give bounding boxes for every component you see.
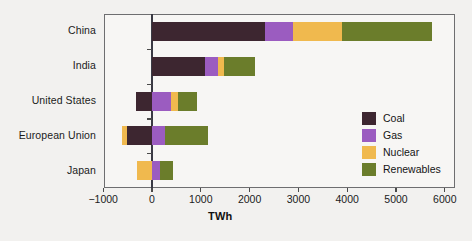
bar-segment-gas bbox=[152, 92, 171, 111]
legend-item-coal: Coal bbox=[362, 110, 441, 126]
legend-swatch-coal-icon bbox=[362, 112, 376, 125]
bar-segment-coal bbox=[152, 57, 205, 76]
bar-segment-coal bbox=[136, 92, 152, 111]
x-axis-title: TWh bbox=[208, 210, 232, 222]
bar-segment-gas bbox=[152, 161, 160, 180]
legend-swatch-renewables-icon bbox=[362, 163, 376, 176]
x-tick-mark bbox=[395, 188, 396, 192]
bar-segment-renewables bbox=[160, 161, 173, 180]
x-tick-label-4000: 4000 bbox=[336, 193, 359, 205]
stacked-bar-chart: China India United States European Union… bbox=[0, 0, 472, 241]
bar-segment-coal bbox=[152, 22, 265, 41]
x-tick-label--1000: −1000 bbox=[88, 193, 118, 205]
x-tick-mark bbox=[298, 188, 299, 192]
legend: Coal Gas Nuclear Renewables bbox=[362, 110, 441, 178]
x-tick-label-2000: 2000 bbox=[238, 193, 261, 205]
legend-swatch-gas-icon bbox=[362, 129, 376, 142]
bar-segment-nuclear bbox=[122, 126, 127, 145]
legend-label-renewables: Renewables bbox=[383, 163, 441, 175]
y-tick-mark bbox=[147, 118, 152, 119]
y-tick-mark bbox=[147, 49, 152, 50]
legend-label-coal: Coal bbox=[383, 112, 405, 124]
bar-group-china bbox=[0, 22, 472, 41]
x-tick-label-3000: 3000 bbox=[287, 193, 310, 205]
bar-segment-renewables bbox=[178, 92, 197, 111]
legend-item-gas: Gas bbox=[362, 127, 441, 143]
bar-segment-renewables bbox=[165, 126, 208, 145]
legend-item-renewables: Renewables bbox=[362, 161, 441, 177]
x-tick-label-5000: 5000 bbox=[384, 193, 407, 205]
bar-segment-gas bbox=[265, 22, 293, 41]
bar-group-united-states bbox=[0, 92, 472, 111]
bar-segment-coal bbox=[127, 126, 152, 145]
x-tick-mark bbox=[249, 188, 250, 192]
legend-label-gas: Gas bbox=[383, 129, 402, 141]
y-tick-mark bbox=[147, 84, 152, 85]
bar-group-india bbox=[0, 57, 472, 76]
x-tick-mark bbox=[103, 188, 104, 192]
x-tick-mark bbox=[347, 188, 348, 192]
x-tick-label-0: 0 bbox=[149, 193, 155, 205]
bar-segment-nuclear bbox=[293, 22, 342, 41]
bar-segment-renewables bbox=[342, 22, 431, 41]
legend-label-nuclear: Nuclear bbox=[383, 146, 419, 158]
bar-segment-nuclear bbox=[171, 92, 178, 111]
bar-segment-renewables bbox=[224, 57, 255, 76]
legend-item-nuclear: Nuclear bbox=[362, 144, 441, 160]
x-tick-label-6000: 6000 bbox=[433, 193, 456, 205]
x-tick-mark bbox=[151, 188, 152, 192]
x-tick-label-1000: 1000 bbox=[189, 193, 212, 205]
bar-segment-gas bbox=[152, 126, 165, 145]
x-tick-mark bbox=[200, 188, 201, 192]
legend-swatch-nuclear-icon bbox=[362, 146, 376, 159]
bar-segment-gas bbox=[205, 57, 218, 76]
x-tick-mark bbox=[444, 188, 445, 192]
bar-segment-nuclear bbox=[137, 161, 152, 180]
y-tick-mark bbox=[147, 153, 152, 154]
